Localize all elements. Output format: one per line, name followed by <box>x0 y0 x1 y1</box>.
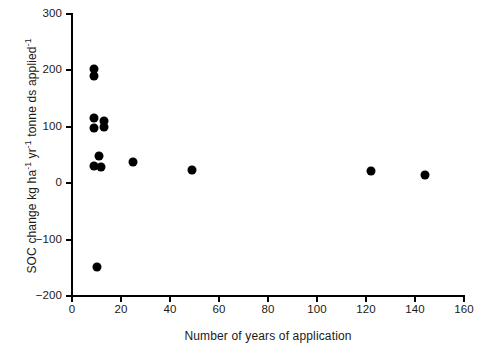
x-tick-label: 60 <box>199 303 239 315</box>
x-tick-mark <box>218 297 220 302</box>
x-axis-title: Number of years of application <box>72 329 464 343</box>
x-tick-label: 160 <box>444 303 482 315</box>
x-tick-label: 40 <box>150 303 190 315</box>
x-tick-label: 20 <box>101 303 141 315</box>
x-tick-mark <box>120 297 122 302</box>
data-point <box>90 113 99 122</box>
y-tick-label: −200 <box>16 290 62 302</box>
y-axis-title-sup-3: -1 <box>23 38 33 46</box>
y-axis-title-sup-2: -1 <box>23 140 33 148</box>
y-axis-title: SOC change kg ha-1 yr-1 tonne ds applied… <box>25 21 39 291</box>
data-point <box>97 163 106 172</box>
data-point <box>90 72 99 81</box>
data-point <box>366 167 375 176</box>
data-point <box>90 124 99 133</box>
y-tick-mark <box>66 13 71 15</box>
y-tick-mark <box>66 126 71 128</box>
x-tick-mark <box>463 297 465 302</box>
y-axis-title-mid-2: tonne ds applied <box>25 46 39 140</box>
data-point <box>92 262 101 271</box>
x-tick-label: 80 <box>248 303 288 315</box>
data-point <box>94 152 103 161</box>
y-tick-mark <box>66 69 71 71</box>
y-tick-label: −100 <box>16 234 62 246</box>
data-point <box>188 166 197 175</box>
scatter-plot-figure: −200−1000100200300 020406080100120140160… <box>0 0 482 352</box>
y-tick-label: 0 <box>16 177 62 189</box>
y-axis-title-mid-1: yr <box>25 148 39 162</box>
x-tick-mark <box>365 297 367 302</box>
plot-data-area <box>72 14 464 296</box>
x-tick-mark <box>267 297 269 302</box>
caption-fragment <box>0 344 482 352</box>
y-tick-label: 300 <box>16 8 62 20</box>
data-point <box>99 122 108 131</box>
data-point <box>420 171 429 180</box>
x-tick-label: 140 <box>395 303 435 315</box>
x-tick-mark <box>414 297 416 302</box>
y-axis-title-sup-1: -1 <box>23 162 33 170</box>
x-tick-label: 120 <box>346 303 386 315</box>
y-tick-label: 100 <box>16 121 62 133</box>
x-tick-mark <box>316 297 318 302</box>
x-tick-mark <box>169 297 171 302</box>
y-tick-mark <box>66 182 71 184</box>
x-tick-label: 100 <box>297 303 337 315</box>
x-tick-label: 0 <box>52 303 92 315</box>
y-axis-title-lead: SOC change kg ha <box>25 170 39 274</box>
y-tick-mark <box>66 239 71 241</box>
x-tick-mark <box>71 297 73 302</box>
data-point <box>129 158 138 167</box>
y-tick-label: 200 <box>16 64 62 76</box>
